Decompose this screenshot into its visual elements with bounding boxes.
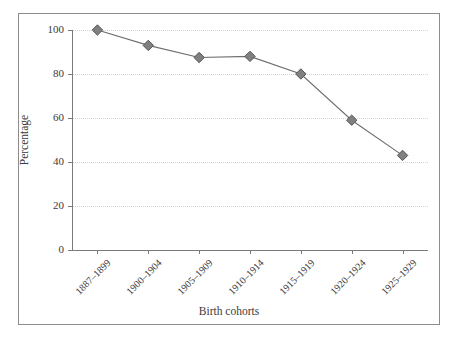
data-point-marker <box>92 25 102 35</box>
data-point-marker <box>194 52 204 62</box>
data-point-marker <box>143 40 153 50</box>
data-series <box>0 0 458 339</box>
chart-figure: 020406080100 1887–18991900–19041905–1909… <box>0 0 458 339</box>
series-line <box>97 30 402 155</box>
data-point-marker <box>397 150 407 160</box>
data-point-marker <box>245 51 255 61</box>
